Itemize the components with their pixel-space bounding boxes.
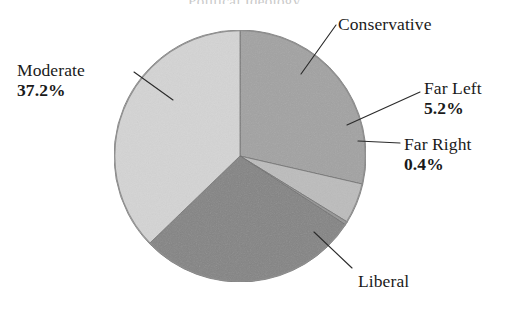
label-far-right: Far Right 0.4% [404,134,472,175]
label-far-right-name: Far Right [404,134,472,154]
label-conservative-name: Conservative [338,14,432,34]
pie-chart-figure: Political Ideology [0,0,513,312]
label-far-left-name: Far Left [424,78,482,98]
cropped-title-remnant: Political Ideology [188,0,328,4]
pie-svg [114,30,366,282]
label-far-right-pct: 0.4% [404,154,472,174]
label-far-left-pct: 5.2% [424,98,482,118]
label-liberal: Liberal [358,271,409,291]
pie-graphic [114,30,366,282]
label-moderate-name: Moderate [17,60,85,80]
label-moderate-pct: 37.2% [17,80,85,100]
label-conservative: Conservative [338,14,432,34]
label-far-left: Far Left 5.2% [424,78,482,119]
label-liberal-name: Liberal [358,271,409,291]
label-moderate: Moderate 37.2% [17,60,85,101]
